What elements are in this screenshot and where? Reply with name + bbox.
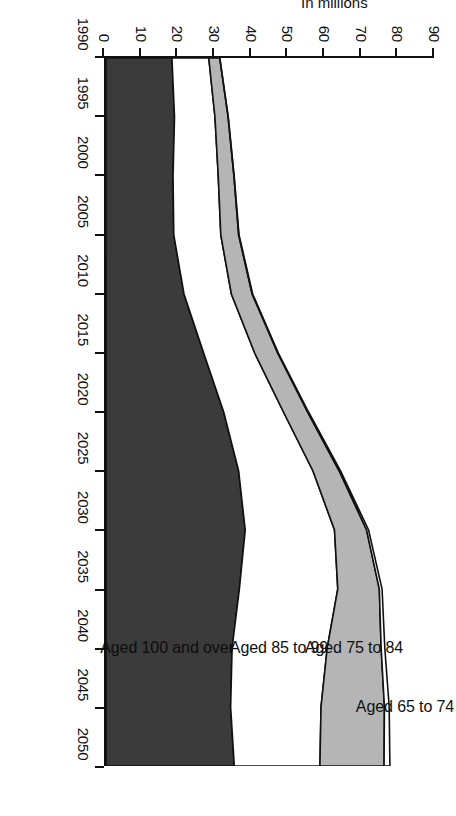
series-label: Aged 75 to 84 — [305, 640, 403, 656]
x-tick-mark — [95, 56, 104, 58]
x-tick-label: 2050 — [0, 722, 91, 766]
plot-area — [104, 56, 434, 766]
series-label: Aged 65 to 74 — [356, 699, 454, 715]
y-tick-mark — [432, 48, 434, 56]
x-tick-label: 2030 — [0, 485, 91, 529]
x-tick-label: 2010 — [0, 249, 91, 293]
y-tick-mark — [139, 48, 141, 56]
y-tick-label: 50 — [280, 2, 295, 42]
chart-figure: 0102030405060708090 19901995200020052010… — [0, 0, 456, 816]
x-tick-label: 2000 — [0, 130, 91, 174]
x-tick-mark — [95, 352, 104, 354]
x-tick-mark — [95, 707, 104, 709]
x-tick-label: 1990 — [0, 12, 91, 56]
y-tick-mark — [175, 48, 177, 56]
y-tick-label: 10 — [134, 2, 149, 42]
x-tick-label: 2005 — [0, 190, 91, 234]
x-tick-label: 2025 — [0, 426, 91, 470]
x-tick-label: 2045 — [0, 663, 91, 707]
y-tick-label: 80 — [390, 2, 405, 42]
y-tick-label: 0 — [97, 2, 112, 42]
y-tick-label: 40 — [244, 2, 259, 42]
x-tick-mark — [95, 529, 104, 531]
x-tick-label: 2035 — [0, 545, 91, 589]
y-tick-mark — [102, 48, 104, 56]
y-tick-mark — [395, 48, 397, 56]
x-tick-mark — [95, 766, 104, 768]
y-axis-title: In millions — [301, 0, 368, 11]
stacked-area-paths — [106, 58, 434, 766]
y-tick-mark — [212, 48, 214, 56]
x-tick-mark — [95, 234, 104, 236]
x-tick-mark — [95, 174, 104, 176]
y-tick-mark — [285, 48, 287, 56]
x-tick-mark — [95, 470, 104, 472]
x-tick-label: 1995 — [0, 71, 91, 115]
y-tick-label: 90 — [427, 2, 442, 42]
series-label: Aged 100 and over — [101, 640, 235, 656]
y-tick-label: 30 — [207, 2, 222, 42]
x-tick-mark — [95, 293, 104, 295]
x-tick-label: 2015 — [0, 308, 91, 352]
x-tick-label: 2040 — [0, 604, 91, 648]
y-tick-label: 20 — [170, 2, 185, 42]
x-tick-mark — [95, 589, 104, 591]
y-tick-mark — [322, 48, 324, 56]
y-tick-mark — [359, 48, 361, 56]
x-tick-label: 2020 — [0, 367, 91, 411]
chart-canvas: 0102030405060708090 19901995200020052010… — [0, 0, 456, 816]
y-tick-mark — [249, 48, 251, 56]
x-tick-mark — [95, 411, 104, 413]
x-tick-mark — [95, 115, 104, 117]
